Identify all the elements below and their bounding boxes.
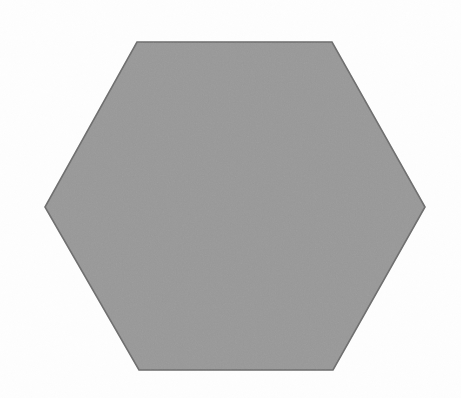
hexagon-figure <box>0 0 461 398</box>
image-canvas <box>0 0 461 398</box>
